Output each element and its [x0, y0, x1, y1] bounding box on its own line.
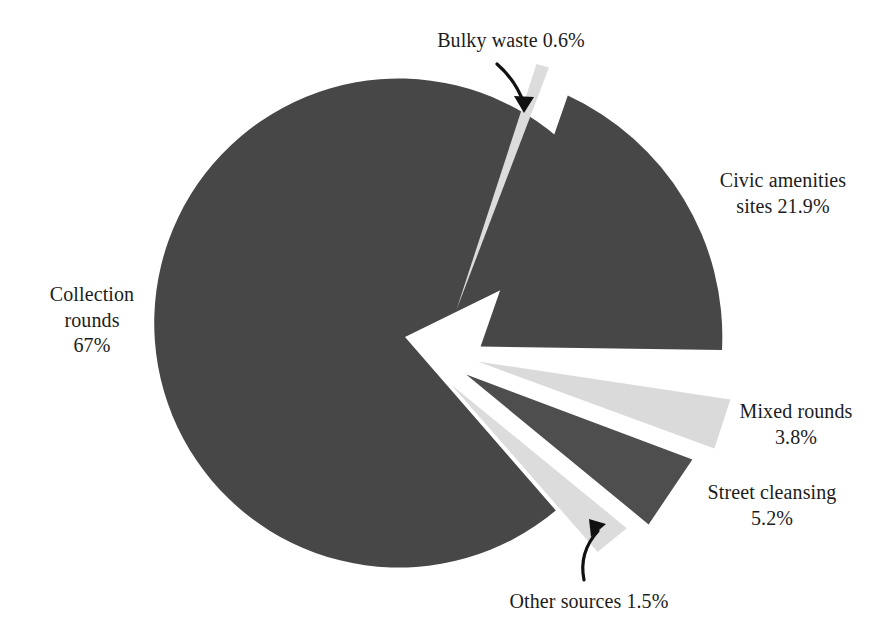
slice-label-bulky-waste: Bulky waste 0.6% — [411, 28, 611, 54]
slice-label-other-sources: Other sources 1.5% — [486, 589, 692, 615]
slice-label-civic-amenities: Civic amenities sites 21.9% — [697, 168, 869, 219]
pie-chart-figure: Bulky waste 0.6% Civic amenities sites 2… — [0, 0, 893, 643]
slice-label-collection-rounds: Collection rounds 67% — [18, 282, 166, 359]
slice-label-mixed-rounds: Mixed rounds 3.8% — [716, 399, 876, 450]
slice-label-street-cleansing: Street cleansing 5.2% — [679, 480, 865, 531]
